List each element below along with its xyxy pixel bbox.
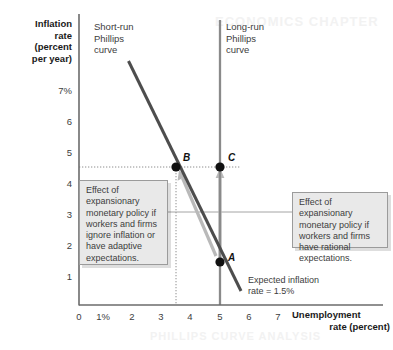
lrpc-label-line-2: Phillips <box>226 33 264 45</box>
y-tick-4: 4 <box>46 178 72 189</box>
data-point-b <box>171 162 180 171</box>
y-tick-6: 6 <box>46 116 72 127</box>
srpc-label-line-2: Phillips <box>94 33 134 45</box>
x-tick-4: 4 <box>180 311 200 322</box>
phillips-curve-figure: ECONOMICS CHAPTER PHILLIPS CURVE ANALYSI… <box>0 0 393 350</box>
arrow-a-to-b <box>178 170 216 256</box>
y-axis-title-line-2: rate <box>6 30 72 42</box>
data-point-a-label: A <box>228 252 235 263</box>
lrpc-label-line-1: Long-run <box>226 21 264 33</box>
y-axis-title-line-3: (percent <box>6 41 72 53</box>
callout-rational-expectations: Effect of expansionary monetary policy i… <box>292 192 388 248</box>
y-axis-title-line-1: Inflation <box>6 18 72 30</box>
y-tick-5: 5 <box>46 147 72 158</box>
x-tick-1: 1% <box>92 311 114 322</box>
y-tick-1: 1 <box>46 271 72 282</box>
expected-inflation-line-2: rate = 1.5% <box>248 286 358 297</box>
x-axis-title-line-1: Unemployment <box>292 309 390 321</box>
x-axis-title: Unemployment rate (percent) <box>292 309 390 332</box>
x-tick-5: 5 <box>210 311 230 322</box>
expected-inflation-annotation: Expected inflation rate = 1.5% <box>248 275 358 298</box>
x-tick-6: 6 <box>239 311 259 322</box>
srpc-label-line-1: Short-run <box>94 21 134 33</box>
short-run-phillips-curve-label: Short-run Phillips curve <box>94 21 134 56</box>
x-tick-7: 7 <box>268 311 288 322</box>
y-tick-2: 2 <box>46 240 72 251</box>
data-point-c-label: C <box>228 152 235 163</box>
expected-inflation-line-1: Expected inflation <box>248 275 358 286</box>
x-tick-3: 3 <box>151 311 171 322</box>
x-tick-0: 0 <box>69 311 89 322</box>
lrpc-label-line-3: curve <box>226 44 264 56</box>
callout-adaptive-text: Effect of expansionary monetary policy i… <box>86 185 157 263</box>
y-tick-7: 7% <box>46 85 72 96</box>
y-axis-title-line-4: per year) <box>6 53 72 65</box>
callout-adaptive-expectations: Effect of expansionary monetary policy i… <box>79 180 168 265</box>
long-run-phillips-curve-label: Long-run Phillips curve <box>226 21 264 56</box>
srpc-label-line-3: curve <box>94 44 134 56</box>
y-tick-3: 3 <box>46 209 72 220</box>
y-axis-title: Inflation rate (percent per year) <box>6 18 72 64</box>
x-tick-2: 2 <box>122 311 142 322</box>
x-axis-title-line-2: rate (percent) <box>292 321 390 333</box>
data-point-a <box>215 257 224 266</box>
data-point-c <box>215 162 224 171</box>
data-point-b-label: B <box>183 152 190 163</box>
